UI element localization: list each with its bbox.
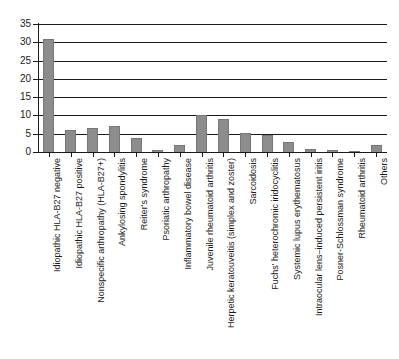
x-axis-line xyxy=(38,152,387,153)
x-axis-label-text: Sarcoidosis xyxy=(249,158,258,205)
x-axis-category-label: Idiopathic HLA-B27 positive xyxy=(75,158,84,269)
x-axis-label-text: Systemic lupus erythematosus xyxy=(293,158,302,280)
x-axis-category-label: Idiopathic HLA-B27 negative xyxy=(53,158,62,272)
x-axis-tick xyxy=(180,153,181,157)
x-axis-tick xyxy=(311,153,312,157)
bar xyxy=(87,128,98,153)
x-axis-label-text: Juvenile rheumatoid arthritis xyxy=(206,158,215,271)
x-axis-category-label: Others xyxy=(380,158,389,185)
y-axis-tick-label: 30 xyxy=(20,37,31,47)
y-axis-tick-label: 0 xyxy=(25,147,31,157)
bar xyxy=(65,130,76,152)
bar xyxy=(218,119,229,152)
bars xyxy=(38,24,387,152)
bar xyxy=(196,115,207,152)
x-axis-label-text: Rheumatoid arthritis xyxy=(358,158,367,239)
x-axis-category-label: Posner-Schlossman syndrome xyxy=(336,158,345,281)
y-axis-tick-label: 15 xyxy=(20,92,31,102)
bar xyxy=(262,135,273,152)
x-axis-category-label: Juvenile rheumatoid arthritis xyxy=(206,158,215,271)
x-axis-category-label: Sarcoidosis xyxy=(249,158,258,205)
x-axis-tick xyxy=(223,153,224,157)
bar xyxy=(283,142,294,152)
x-axis-category-label: Fuchs' heterochromic iridocyclitis xyxy=(271,158,280,290)
x-axis-category-label: Psoriatic arthropathy xyxy=(162,158,171,241)
x-axis-tick xyxy=(158,153,159,157)
y-axis-tick-label: 5 xyxy=(25,129,31,139)
x-axis-category-label: Ankylosing spondylitis xyxy=(118,158,127,246)
y-axis-tick-label: 20 xyxy=(20,74,31,84)
x-axis-label-text: Fuchs' heterochromic iridocyclitis xyxy=(271,158,280,290)
x-axis-category-label: Intraocular lens–induced persistent irit… xyxy=(315,158,324,316)
bar xyxy=(371,145,382,152)
x-axis-label-text: Posner-Schlossman syndrome xyxy=(336,158,345,281)
x-axis-tick xyxy=(289,153,290,157)
x-axis-category-label: Nonspecific arthropathy (HLA-B27+) xyxy=(97,158,106,303)
x-axis-label-text: Reiter's syndrome xyxy=(140,158,149,230)
x-axis-tick xyxy=(71,153,72,157)
bar xyxy=(131,138,142,152)
x-axis-label-text: Inflammatory bowel disease xyxy=(184,158,193,270)
bar-chart-figure: 05101520253035 Idiopathic HLA-B27 negati… xyxy=(0,0,399,359)
x-axis-tick xyxy=(49,153,50,157)
bar xyxy=(240,133,251,152)
x-axis-tick xyxy=(354,153,355,157)
x-axis-category-label: Rheumatoid arthritis xyxy=(358,158,367,239)
bar xyxy=(43,39,54,152)
bar xyxy=(109,126,120,152)
x-axis-category-label: Inflammatory bowel disease xyxy=(184,158,193,270)
x-axis-category-label: Systemic lupus erythematosus xyxy=(293,158,302,280)
y-axis-tick-label: 10 xyxy=(20,110,31,120)
y-axis-labels: 05101520253035 xyxy=(0,0,31,359)
x-axis-tick xyxy=(332,153,333,157)
x-axis-category-label: Reiter's syndrome xyxy=(140,158,149,230)
x-axis-category-labels: Idiopathic HLA-B27 negativeIdiopathic HL… xyxy=(38,158,387,358)
x-axis-label-text: Ankylosing spondylitis xyxy=(118,158,127,246)
x-axis-category-label: Herpetic keratouveitis (simplex and zost… xyxy=(227,158,236,328)
x-axis-label-text: Idiopathic HLA-B27 negative xyxy=(53,158,62,272)
bar xyxy=(327,150,338,152)
x-axis-label-text: Psoriatic arthropathy xyxy=(162,158,171,241)
y-axis-tick-label: 25 xyxy=(20,56,31,66)
bar xyxy=(349,151,360,152)
x-axis-label-text: Idiopathic HLA-B27 positive xyxy=(75,158,84,269)
x-axis-tick xyxy=(245,153,246,157)
bar xyxy=(305,149,316,152)
x-axis-label-text: Others xyxy=(380,158,389,185)
x-axis-label-text: Nonspecific arthropathy (HLA-B27+) xyxy=(97,158,106,303)
x-axis-tick xyxy=(136,153,137,157)
x-axis-label-text: Herpetic keratouveitis (simplex and zost… xyxy=(227,158,236,328)
y-axis-tick-label: 35 xyxy=(20,19,31,29)
x-axis-tick xyxy=(376,153,377,157)
x-axis-tick xyxy=(93,153,94,157)
x-axis-label-text: Intraocular lens–induced persistent irit… xyxy=(315,158,324,316)
bar xyxy=(152,150,163,152)
bar xyxy=(174,145,185,152)
x-axis-tick xyxy=(267,153,268,157)
x-axis-tick xyxy=(114,153,115,157)
x-axis-tick xyxy=(202,153,203,157)
plot-area xyxy=(38,24,387,152)
